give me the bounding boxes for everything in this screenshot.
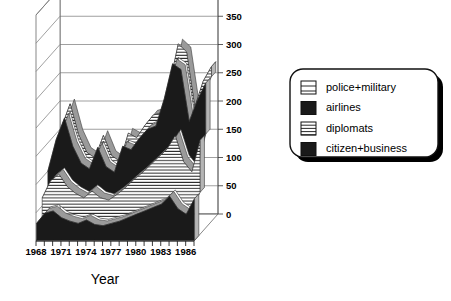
- three-d-stacked-area-chart: 1968197119741977198019831986050100150200…: [0, 0, 451, 301]
- legend: police+militaryairlinesdiplomatscitizen+…: [290, 69, 443, 162]
- y-tick-group: 050100150200250300350400: [218, 0, 242, 220]
- legend-item-2[interactable]: diplomats: [301, 122, 374, 135]
- legend-item-0[interactable]: police+military: [301, 81, 396, 94]
- chart-root: 1968197119741977198019831986050100150200…: [0, 0, 451, 301]
- ribbon-right-cap: [195, 194, 199, 241]
- y-tick-label-350: 350: [226, 11, 242, 22]
- ribbon-right-cap: [200, 135, 204, 192]
- ribbon-right-cap: [206, 78, 210, 134]
- y-tick-label-100: 100: [226, 152, 242, 163]
- x-tick-label-1968: 1968: [25, 246, 46, 257]
- x-tick-label-1986: 1986: [175, 246, 196, 257]
- legend-swatch-1: [301, 102, 316, 115]
- legend-label-1: airlines: [326, 101, 361, 113]
- x-tick-label-1977: 1977: [100, 246, 121, 257]
- legend-swatch-0: [301, 81, 316, 94]
- y-tick-label-300: 300: [226, 39, 242, 50]
- x-axis-title: Year: [91, 271, 120, 287]
- x-tick-label-1983: 1983: [150, 246, 171, 257]
- legend-item-1[interactable]: airlines: [301, 101, 361, 114]
- y-tick-label-50: 50: [226, 180, 237, 191]
- x-tick-label-1971: 1971: [50, 246, 72, 257]
- legend-label-2: diplomats: [326, 122, 374, 134]
- legend-swatch-3: [301, 143, 316, 156]
- y-tick-label-200: 200: [226, 96, 242, 107]
- legend-label-3: citizen+business: [326, 142, 408, 154]
- y-tick-label-0: 0: [226, 209, 231, 220]
- x-tick-label-1974: 1974: [75, 246, 97, 257]
- x-tick-group: 1968197119741977198019831986: [25, 241, 196, 257]
- legend-label-0: police+military: [326, 81, 396, 93]
- y-tick-label-150: 150: [226, 124, 242, 135]
- y-tick-label-250: 250: [226, 67, 242, 78]
- x-tick-label-1980: 1980: [125, 246, 146, 257]
